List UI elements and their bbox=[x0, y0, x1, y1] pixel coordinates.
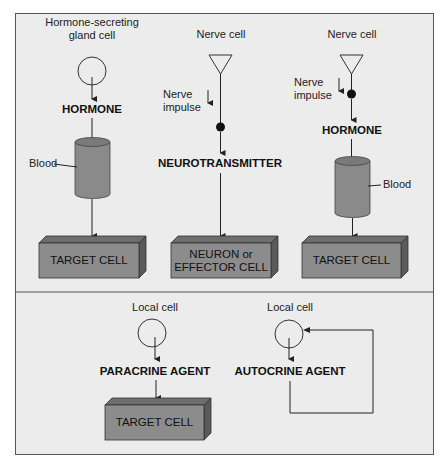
diagram-graphics bbox=[0, 0, 446, 469]
hormone-label: HORMONE bbox=[42, 103, 142, 116]
synapse-dot-icon bbox=[216, 123, 225, 132]
blood-vessel-icon bbox=[335, 157, 370, 218]
blood-label-2: Blood bbox=[383, 178, 413, 191]
nerve-cell-icon bbox=[340, 55, 363, 74]
paracrine-local-cell-label: Local cell bbox=[105, 301, 205, 314]
autocrine-local-cell-label: Local cell bbox=[240, 301, 340, 314]
nerve-impulse-label: Nerve impulse bbox=[163, 88, 203, 114]
autocrine-agent-label: AUTOCRINE AGENT bbox=[230, 365, 350, 378]
gland-cell-label: Hormone-secreting gland cell bbox=[42, 16, 142, 42]
neurotransmitter-label: NEUROTRANSMITTER bbox=[155, 157, 285, 170]
target-cell-label-2: TARGET CELL bbox=[302, 254, 401, 267]
hormone-label-2: HORMONE bbox=[302, 124, 402, 137]
target-cell-label: TARGET CELL bbox=[39, 254, 139, 267]
paracrine-agent-label: PARACRINE AGENT bbox=[95, 365, 215, 378]
nerve-cell-label: Nerve cell bbox=[171, 28, 271, 41]
neuron-effector-label: NEURON or EFFECTOR CELL bbox=[171, 248, 271, 274]
nerve-cell-icon bbox=[209, 55, 232, 74]
synapse-dot-icon bbox=[347, 90, 356, 99]
nerve-impulse-label-2: Nerve impulse bbox=[294, 76, 334, 102]
local-cell-icon bbox=[138, 319, 166, 347]
blood-vessel-icon bbox=[75, 138, 110, 199]
blood-label: Blood bbox=[29, 157, 55, 170]
nerve-cell-label-2: Nerve cell bbox=[302, 28, 402, 41]
paracrine-target-label: TARGET CELL bbox=[105, 416, 204, 429]
